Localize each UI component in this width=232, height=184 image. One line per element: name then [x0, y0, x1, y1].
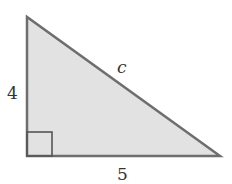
side-label-vertical: 4 [7, 83, 18, 103]
side-label-horizontal: 5 [117, 164, 128, 184]
right-triangle-diagram: 4 c 5 [0, 0, 232, 184]
side-label-hypotenuse: c [117, 57, 127, 77]
triangle [27, 17, 220, 156]
